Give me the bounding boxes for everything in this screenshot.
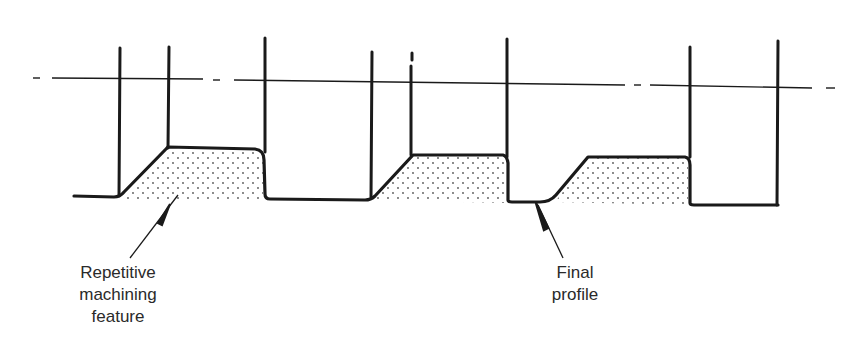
label-repetitive-machining-feature: Repetitive machining feature	[68, 262, 168, 328]
label-line-2: profile	[530, 284, 620, 306]
label-line-3: feature	[68, 306, 168, 328]
label-line-1: Repetitive	[68, 262, 168, 284]
label-line-1: Final	[530, 262, 620, 284]
leader-final-profile	[536, 203, 563, 258]
label-line-2: machining	[68, 284, 168, 306]
label-final-profile: Final profile	[530, 262, 620, 306]
leader-repetitive-feature	[130, 195, 178, 258]
centerline	[33, 78, 835, 88]
feature-region-3	[555, 157, 688, 205]
